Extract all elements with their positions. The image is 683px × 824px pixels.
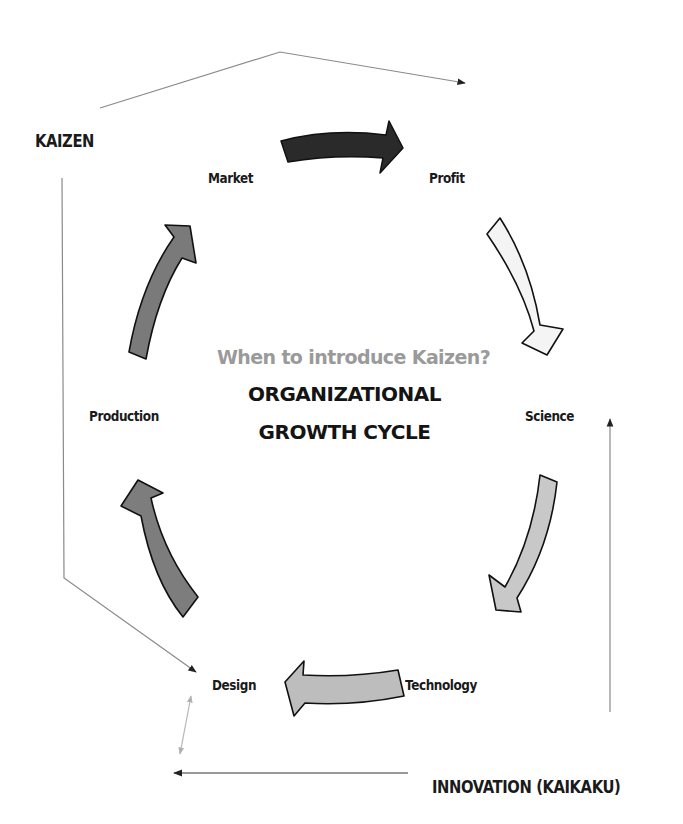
node-profit: Profit (429, 170, 465, 186)
center-question: When to introduce Kaizen? (12, 346, 683, 368)
kaizen-label: KAIZEN (35, 130, 94, 151)
arrow-science-to-technology (489, 475, 557, 612)
arrow-production-to-market (129, 225, 196, 359)
node-technology: Technology (405, 677, 477, 693)
node-design: Design (212, 677, 256, 693)
arrow-market-to-profit (281, 121, 403, 173)
arrow-profit-to-science (487, 218, 563, 355)
kaizen-to-profit-line (100, 52, 465, 108)
center-title-line2: GROWTH CYCLE (3, 420, 683, 444)
center-title-line1: ORGANIZATIONAL (3, 382, 683, 406)
arrow-design-to-production (121, 480, 198, 617)
innovation-label: INNOVATION (KAIKAKU) (432, 776, 620, 797)
arrow-technology-to-design (285, 661, 404, 716)
design-bidirectional-line (180, 696, 191, 754)
node-market: Market (208, 170, 253, 186)
